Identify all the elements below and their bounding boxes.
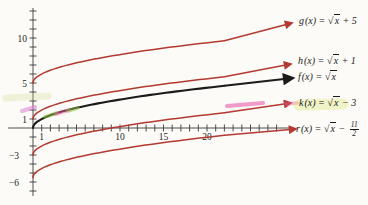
function-label-g: g(x) = √x + 5 [299,16,357,27]
radical-sign: √x [327,54,339,66]
function-name: k [299,97,303,108]
function-args-equals: (x) = [302,71,325,82]
x-tick-label-1: 1 [39,132,44,142]
sqrt-icon: √ [327,55,333,66]
magenta-streak-k-curve [227,103,263,106]
highlighter-marks [6,96,343,117]
arrow-h [224,64,291,77]
radical-sign: √x [328,14,340,26]
function-label-h: h(x) = √x + 1 [298,56,356,67]
arrow-f [224,78,293,86]
function-name: f [298,71,301,82]
function-args-equals: (x) = [305,15,328,26]
arrow-g [224,23,292,41]
y-tick-label-10: 10 [18,34,28,44]
curve-r [33,135,224,177]
y-axis-ticks [30,11,37,191]
y-tick-label-1: 1 [22,115,27,125]
sqrt-icon: √ [324,123,330,134]
y-tick-label-5: 5 [22,79,27,89]
shift-term: + 5 [340,15,357,26]
sqrt-icon: √ [328,15,334,26]
function-args-equals: (x) = [304,97,327,108]
fraction-denominator: 2 [350,130,359,138]
function-args-equals: (x) = [301,123,324,134]
function-label-r: r(x) = √x − 112 [296,121,359,138]
curve-g [33,41,224,83]
function-label-f: f(x) = √x [298,72,337,83]
shift-term: − 3 [340,97,357,108]
shift-term: − [336,123,348,134]
shift-term: + 1 [339,55,356,66]
function-name: g [299,15,304,26]
figure-canvas: 11015201051−3−6 g(x) = √x + 5h(x) = √x +… [0,0,368,205]
radicand: x [330,70,336,82]
function-name: r [296,123,300,134]
x-tick-label-10: 10 [115,132,125,142]
x-tick-label-15: 15 [159,132,169,142]
function-args-equals: (x) = [304,55,327,66]
radical-sign: √x [325,70,337,82]
function-name: h [298,55,303,66]
function-label-k: k(x) = √x − 3 [299,98,356,109]
yellow-smudge-left-edge [6,96,48,98]
radical-sign: √x [327,96,339,108]
radical-sign: √x [324,122,336,134]
y-tick-label-−3: −3 [9,151,19,161]
y-tick-label-−6: −6 [9,178,19,188]
curve-k [33,113,224,155]
curve-f [33,86,224,128]
arrow-r [224,129,296,135]
fraction: 112 [350,121,359,138]
